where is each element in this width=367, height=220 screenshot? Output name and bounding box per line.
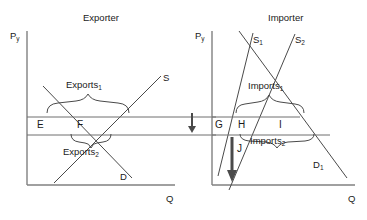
importer-supply-1-label: S1 bbox=[253, 35, 263, 45]
exporter-axes bbox=[27, 31, 175, 185]
exports-2-label: Exports2 bbox=[63, 147, 99, 157]
imports-2-label: Imports2 bbox=[250, 136, 285, 146]
exporter-demand-label: D bbox=[120, 172, 127, 182]
importer-supply-curve-2 bbox=[229, 34, 295, 190]
importer-supply-2-label: S2 bbox=[295, 35, 305, 45]
importer-point-h-label: H bbox=[238, 120, 245, 130]
exporter-demand-curve bbox=[43, 86, 132, 178]
exporter-point-f-label: F bbox=[77, 120, 83, 130]
trade-diagram: Exporter Py Q S D E F Exports1 Exports2 … bbox=[0, 0, 367, 220]
imports-1-label: Imports1 bbox=[248, 81, 283, 91]
exporter-y-axis-label: Py bbox=[10, 31, 20, 41]
exporter-point-e-label: E bbox=[37, 120, 44, 130]
importer-point-g-label: G bbox=[215, 120, 223, 130]
importer-panel-title: Importer bbox=[268, 13, 303, 23]
exporter-panel-title: Exporter bbox=[83, 13, 119, 23]
importer-x-axis-label: Q bbox=[348, 194, 355, 204]
importer-supply-curve-1 bbox=[218, 33, 253, 176]
price-transfer-arrow-head bbox=[188, 126, 196, 133]
importer-point-i-label: I bbox=[279, 120, 282, 130]
imports-1-brace bbox=[236, 95, 304, 113]
importer-demand-1-label: D1 bbox=[313, 160, 324, 170]
exporter-supply-label: S bbox=[163, 73, 169, 83]
diagram-canvas bbox=[0, 0, 367, 220]
exporter-x-axis-label: Q bbox=[166, 194, 173, 204]
exports-1-label: Exports1 bbox=[66, 80, 102, 90]
importer-point-j-label: J bbox=[237, 144, 242, 154]
exporter-supply-curve bbox=[54, 76, 161, 183]
importer-demand-curve-1 bbox=[239, 31, 347, 178]
price-transfer-connector bbox=[176, 113, 216, 135]
importer-y-axis-label: Py bbox=[195, 31, 205, 41]
